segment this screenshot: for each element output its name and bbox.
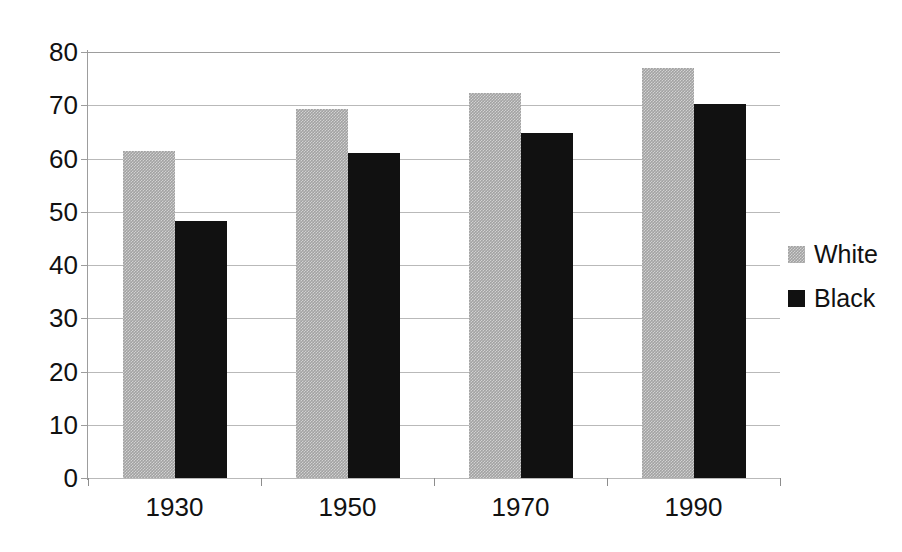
x-axis-tick (780, 478, 781, 486)
legend-item-black[interactable]: Black (788, 276, 902, 320)
y-axis-tick-label: 20 (0, 359, 78, 385)
bar-white-1970 (469, 93, 521, 478)
y-axis-tick-label: 50 (0, 199, 78, 225)
bar-white-1950 (296, 109, 348, 478)
x-axis-tick (261, 478, 262, 486)
y-axis-tick-label: 80 (0, 39, 78, 65)
bar-white-1990 (642, 68, 694, 478)
legend-swatch-icon (788, 290, 805, 307)
bar-black-1970 (521, 133, 573, 478)
x-axis-tick (607, 478, 608, 486)
y-axis-tick (81, 265, 88, 266)
y-axis-tick (81, 425, 88, 426)
y-axis-tick (81, 105, 88, 106)
bar-black-1990 (694, 104, 746, 478)
bar-chart: 01020304050607080 1930195019701990 White… (0, 0, 902, 552)
y-axis-tick (81, 159, 88, 160)
y-axis-tick (81, 478, 88, 479)
x-axis-category-label: 1930 (88, 492, 261, 522)
y-axis-tick-label: 30 (0, 305, 78, 331)
legend-item-label: Black (814, 286, 875, 311)
legend-item-white[interactable]: White (788, 232, 902, 276)
x-axis-tick (434, 478, 435, 486)
x-axis-tick (88, 478, 89, 486)
bars-layer (88, 52, 780, 478)
legend-item-label: White (814, 242, 878, 267)
x-axis-category-label: 1950 (261, 492, 434, 522)
y-axis-tick-label: 40 (0, 252, 78, 278)
x-axis-category-labels: 1930195019701990 (88, 492, 780, 532)
chart-legend: WhiteBlack (788, 232, 902, 320)
bar-white-1930 (123, 151, 175, 478)
bar-black-1950 (348, 153, 400, 478)
y-axis-tick-label: 0 (0, 465, 78, 491)
y-axis-tick-label: 70 (0, 92, 78, 118)
y-axis-tick-label: 10 (0, 412, 78, 438)
legend-swatch-icon (788, 246, 805, 263)
y-axis-tick (81, 52, 88, 53)
y-axis-tick-label: 60 (0, 146, 78, 172)
bar-black-1930 (175, 221, 227, 478)
y-axis-tick (81, 372, 88, 373)
x-axis-category-label: 1990 (607, 492, 780, 522)
x-axis-category-label: 1970 (434, 492, 607, 522)
y-axis-tick (81, 318, 88, 319)
plot-area (88, 52, 780, 478)
y-axis-tick (81, 212, 88, 213)
y-axis-tick-labels: 01020304050607080 (0, 0, 78, 552)
